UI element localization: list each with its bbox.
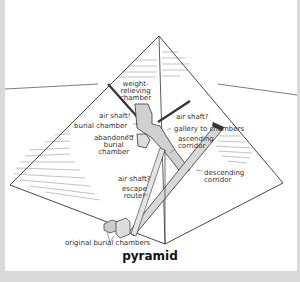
- label-descending-corridor: descending corridor: [204, 170, 244, 184]
- label-air-shaft-lower: air shaft?: [118, 176, 151, 183]
- label-ascending-corridor: ascending corridor: [178, 136, 214, 150]
- label-air-shaft-right: air shaft?: [176, 114, 209, 121]
- label-escape-route: escape route!: [122, 186, 147, 200]
- label-air-shaft-left: air shaft!: [99, 113, 131, 120]
- horizon-left: [5, 84, 98, 89]
- original-chamber-2: [116, 218, 130, 238]
- label-gallery-to-chambers: gallery to chambers: [174, 126, 244, 133]
- label-weight-relieving-chamber: weight- relieving chamber: [120, 81, 151, 102]
- label-original-burial-chambers: original burial chambers: [65, 240, 150, 247]
- label-burial-chamber: burial chamber: [74, 123, 127, 130]
- diagram-caption: pyramid: [0, 249, 300, 263]
- label-abandoned-burial-chamber: abandoned burial chamber: [94, 135, 133, 156]
- horizon-right: [218, 84, 297, 95]
